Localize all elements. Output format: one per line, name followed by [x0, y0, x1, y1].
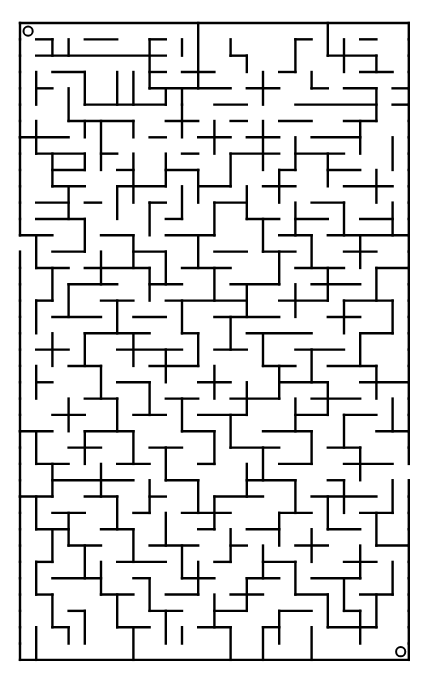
maze-inner-walls — [20, 23, 409, 660]
end-circle-icon[interactable] — [396, 647, 405, 656]
start-circle-icon[interactable] — [24, 27, 33, 36]
maze-board — [0, 0, 428, 682]
maze-outer-border — [20, 23, 409, 660]
